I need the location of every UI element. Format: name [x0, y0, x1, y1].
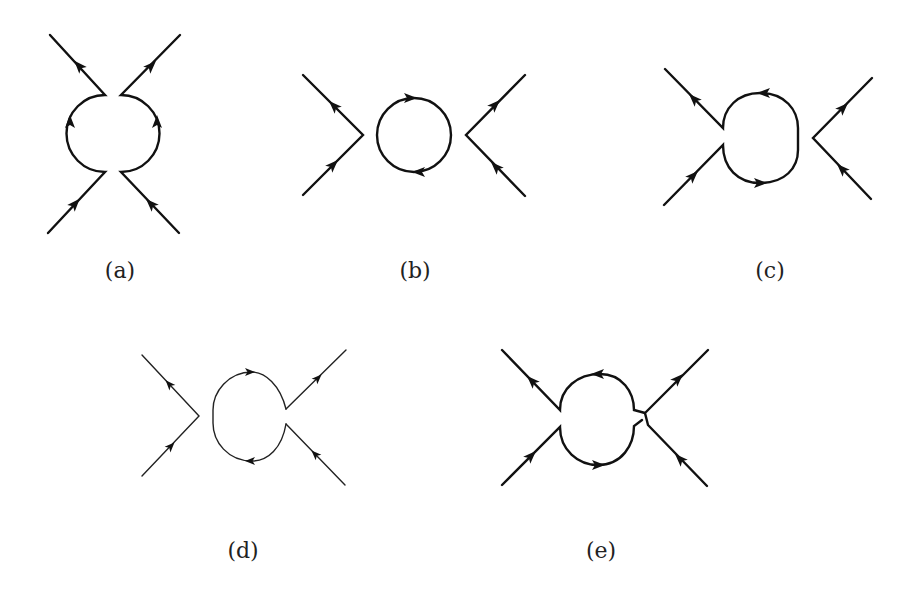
feynman-diagrams-figure [0, 0, 915, 596]
diagram-c [664, 69, 872, 205]
panel-label-b: (b) [399, 258, 430, 283]
diagram-e [502, 350, 708, 486]
panel-label-e: (e) [586, 538, 616, 563]
diagram-b [303, 75, 525, 196]
panel-label-a: (a) [105, 258, 135, 283]
diagram-d [142, 350, 346, 485]
diagram-a [48, 35, 180, 233]
panel-label-d: (d) [227, 538, 258, 563]
panel-label-c: (c) [755, 258, 785, 283]
